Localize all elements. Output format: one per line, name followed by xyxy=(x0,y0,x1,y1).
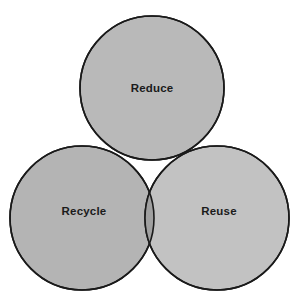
venn-label-reduce: Reduce xyxy=(131,82,174,94)
venn-diagram-canvas: Reduce Recycle Reuse xyxy=(0,0,305,302)
venn-label-reuse: Reuse xyxy=(201,205,237,217)
venn-diagram: Reduce Recycle Reuse xyxy=(0,0,305,302)
venn-label-recycle: Recycle xyxy=(62,205,107,217)
